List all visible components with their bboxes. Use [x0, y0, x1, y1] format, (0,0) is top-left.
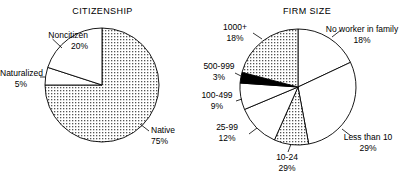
label-25-99-value: 12% — [209, 133, 245, 144]
label-10-24: 10-24 29% — [267, 152, 307, 173]
label-less-than-10: Less than 10 29% — [332, 132, 404, 153]
label-100-499-value: 9% — [198, 101, 236, 112]
label-500-999: 500-999 3% — [201, 61, 237, 82]
leader-line-25-99 — [249, 128, 257, 134]
label-500-999-name: 500-999 — [201, 61, 237, 72]
label-1000-plus: 1000+ 18% — [215, 22, 255, 43]
label-25-99-name: 25-99 — [209, 122, 245, 133]
label-naturalized: Naturalized 5% — [0, 68, 42, 89]
label-no-worker-in-family-name: No worker in family — [315, 24, 409, 35]
label-naturalized-name: Naturalized — [0, 68, 42, 79]
label-500-999-value: 3% — [201, 72, 237, 83]
pie-chart-figure: CITIZENSHIP Noncitizen 20% — [0, 0, 409, 182]
firm-size-chart-panel: FIRM SIZE — [205, 0, 409, 182]
leader-line-native — [140, 124, 149, 131]
label-noncitizen-name: Noncitizen — [16, 30, 88, 41]
label-naturalized-value: 5% — [0, 79, 42, 90]
label-100-499-name: 100-499 — [198, 90, 236, 101]
leader-line-10-24 — [288, 144, 291, 152]
citizenship-pie-svg — [0, 0, 205, 182]
label-1000-plus-name: 1000+ — [215, 22, 255, 33]
label-1000-plus-value: 18% — [215, 33, 255, 44]
label-native: Native 75% — [151, 125, 203, 146]
label-noncitizen: Noncitizen 20% — [16, 30, 88, 51]
label-native-name: Native — [151, 125, 203, 136]
label-noncitizen-value: 20% — [16, 41, 88, 52]
label-10-24-name: 10-24 — [267, 152, 307, 163]
label-less-than-10-name: Less than 10 — [332, 132, 404, 143]
label-no-worker-in-family: No worker in family 18% — [315, 24, 409, 45]
label-no-worker-in-family-value: 18% — [315, 35, 409, 46]
label-25-99: 25-99 12% — [209, 122, 245, 143]
label-10-24-value: 29% — [267, 163, 307, 174]
label-100-499: 100-499 9% — [198, 90, 236, 111]
label-native-value: 75% — [151, 136, 203, 147]
citizenship-chart-panel: CITIZENSHIP Noncitizen 20% — [0, 0, 205, 182]
label-less-than-10-value: 29% — [332, 143, 404, 154]
